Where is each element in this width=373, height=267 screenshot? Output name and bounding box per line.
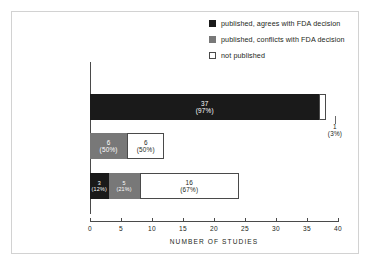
x-tick-label-10: 10 [148,225,156,232]
x-tick-25 [245,218,246,222]
x-tick-label-15: 15 [179,225,187,232]
x-tick-15 [183,218,184,222]
segment-value: 16 [185,179,193,186]
x-tick-label-0: 0 [88,225,92,232]
legend-label-not-published: not published [221,51,265,60]
figure-container: published, agrees with FDA decision publ… [0,0,373,267]
segment-percent: (67%) [180,186,198,193]
bar-row-questionable: 6 (50%) 6 (50%) [90,133,164,159]
x-tick-label-30: 30 [272,225,280,232]
x-tick-10 [152,218,153,222]
bar-row-positive: 37 (97%) [90,94,326,120]
x-tick-5 [121,218,122,222]
bar-segment-questionable-conflicts: 6 (50%) [90,133,127,159]
bar-segment-negative-agrees: 3 (12%) [90,173,109,199]
callout-positive-not-published: 1 (3%) [328,123,342,138]
bar-segment-positive-not-published [319,94,325,120]
x-tick-label-20: 20 [210,225,218,232]
segment-value: 37 [201,100,209,107]
white-square-icon [209,52,216,59]
x-axis-title: NUMBER OF STUDIES [90,238,338,245]
bar-segment-questionable-not-published: 6 (50%) [127,133,164,159]
x-tick-label-25: 25 [241,225,249,232]
legend-label-agrees: published, agrees with FDA decision [221,19,340,28]
segment-value: 6 [107,139,111,146]
black-square-icon [209,20,216,27]
bar-segment-negative-not-published: 16 (67%) [140,173,239,199]
segment-percent: (50%) [137,146,155,153]
x-tick-40 [338,218,339,222]
x-tick-0 [90,218,91,222]
segment-value: 6 [144,139,148,146]
segment-percent: (12%) [92,186,107,192]
legend-label-conflicts: published, conflicts with FDA decision [221,35,345,44]
chart-legend: published, agrees with FDA decision publ… [209,17,359,65]
x-tick-label-5: 5 [119,225,123,232]
gray-square-icon [209,36,216,43]
segment-percent: (21%) [116,186,131,192]
x-tick-label-40: 40 [334,225,342,232]
x-tick-20 [214,218,215,222]
segment-percent: (97%) [196,107,214,114]
legend-item-not-published: not published [209,49,359,62]
legend-item-conflicts: published, conflicts with FDA decision [209,33,359,46]
legend-item-agrees: published, agrees with FDA decision [209,17,359,30]
bar-row-negative: 3 (12%) 5 (21%) 16 (67%) [90,173,239,199]
callout-percent: (3%) [328,130,342,137]
x-tick-label-35: 35 [303,225,311,232]
segment-percent: (50%) [100,146,118,153]
x-tick-35 [307,218,308,222]
bar-segment-negative-conflicts: 5 (21%) [109,173,140,199]
x-tick-30 [276,218,277,222]
bar-segment-positive-agrees: 37 (97%) [90,94,319,120]
callout-value: 1 [328,123,342,130]
